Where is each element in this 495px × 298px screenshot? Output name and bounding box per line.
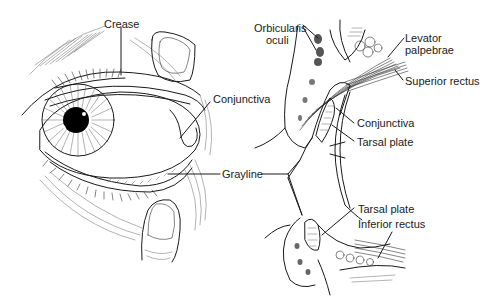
label-conjunctiva-left: Conjunctiva: [213, 93, 270, 105]
orbital-fat: [355, 37, 382, 57]
label-conjunctiva-right: Conjunctiva: [357, 117, 414, 129]
eyebrow-hatching: [30, 26, 105, 74]
external-eye-drawing: [22, 26, 212, 262]
sagittal-section-drawing: [255, 20, 408, 295]
label-inferior-rectus: Inferior rectus: [358, 218, 425, 230]
superior-rectus: [345, 62, 408, 91]
orbital-bone-upper: [330, 30, 365, 60]
label-grayline: Grayline: [222, 168, 263, 180]
lower-tarsal-plate: [305, 219, 320, 250]
label-crease: Crease: [104, 18, 139, 30]
lower-lid-skin: [283, 218, 315, 287]
upper-tarsal-plate: [316, 98, 335, 142]
label-tarsal-plate-upper: Tarsal plate: [357, 136, 413, 148]
levator-leader: [388, 38, 404, 57]
upper-lid-skin: [285, 25, 312, 148]
inferior-rectus-leader: [378, 232, 392, 258]
lower-orbital-fat: [336, 251, 374, 266]
pupil: [63, 107, 89, 133]
label-orbicularis-line1: Orbicularis: [254, 22, 307, 34]
eyeball-outline: [40, 92, 200, 178]
label-tarsal-plate-lower: Tarsal plate: [358, 203, 414, 215]
tarsal-plate-lower-leader: [322, 208, 354, 235]
orbital-floor: [318, 260, 330, 295]
upper-lid-margin-section: [288, 138, 312, 178]
lower-thumb: [142, 200, 181, 262]
label-orbicularis-line2: oculi: [266, 34, 289, 46]
cornea: [335, 95, 362, 220]
label-levator-line2: palpebrae: [405, 44, 454, 56]
upper-skin-flap: [255, 128, 285, 148]
upper-thumb: [152, 32, 195, 82]
eyelid-anatomy-diagram: Crease Conjunctiva Grayline Orbicularis …: [0, 0, 495, 298]
inferior-rectus: [355, 240, 405, 262]
label-levator-line1: Levator: [405, 32, 442, 44]
lower-orbicularis-bundles: [295, 243, 311, 275]
grayline-leader-right-up: [262, 160, 300, 174]
label-superior-rectus: Superior rectus: [405, 75, 480, 87]
grayline-leader-right-down: [288, 174, 302, 215]
